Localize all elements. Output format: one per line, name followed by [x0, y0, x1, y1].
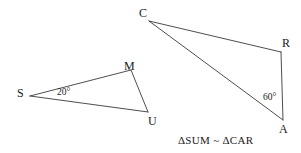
geometry-figure: S M U C R A 20° 60° ΔSUM ~ ΔCAR — [0, 0, 301, 153]
angle-label-a-60: 60° — [263, 93, 276, 103]
segment-a-c — [149, 21, 283, 120]
vertex-label-s: S — [17, 87, 24, 99]
vertex-label-m: M — [124, 60, 135, 72]
segment-s-m — [30, 70, 131, 96]
vertex-label-c: C — [139, 7, 147, 19]
similarity-statement: ΔSUM ~ ΔCAR — [178, 134, 253, 146]
triangle-sum-shape — [30, 70, 148, 112]
vertex-label-u: U — [148, 115, 157, 127]
segment-c-r — [149, 21, 281, 52]
segment-r-a — [281, 52, 283, 120]
triangle-car-shape — [149, 21, 283, 120]
segment-m-u — [131, 70, 148, 112]
geometry-diagram — [0, 0, 301, 153]
angle-label-s-20: 20° — [57, 88, 70, 98]
vertex-label-r: R — [282, 37, 290, 49]
segment-u-s — [30, 96, 148, 112]
vertex-label-a: A — [279, 123, 288, 135]
